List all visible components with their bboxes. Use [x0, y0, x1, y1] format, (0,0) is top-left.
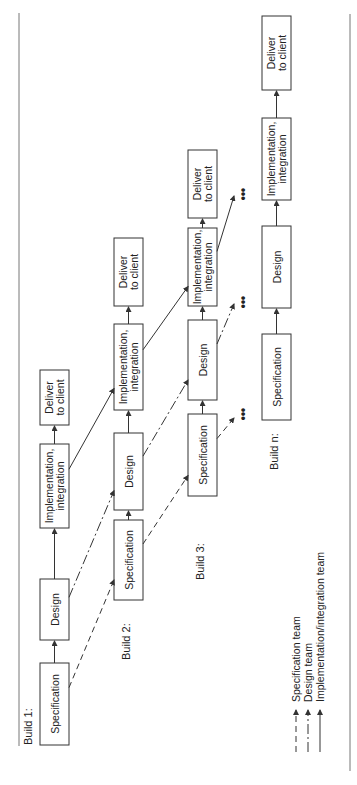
team-arrow-design: [143, 380, 188, 456]
diagram-svg: Build 1:SpecificationDesignImplementatio…: [0, 0, 357, 785]
stage-box-design: Design: [262, 201, 291, 308]
stage-label: Specification: [49, 674, 61, 734]
ellipsis: •••: [236, 188, 250, 201]
incremental-model-diagram: Build 1:SpecificationDesignImplementatio…: [0, 0, 357, 785]
stage-box-spec: Specification: [262, 309, 291, 420]
stage-label: Specification: [197, 425, 209, 485]
team-arrow-design: [69, 491, 114, 598]
stage-box-deliver: Deliverto client: [262, 16, 291, 90]
stage-label: Design: [197, 343, 209, 376]
stage-label: integration: [128, 342, 140, 391]
ellipsis: •••: [236, 408, 250, 421]
stage-box-deliver: Deliverto client: [40, 370, 69, 425]
build-3: Build 3:SpecificationDesignImplementatio…: [188, 150, 217, 580]
legend-label: Design team: [302, 643, 314, 702]
team-arrow-spec: [217, 418, 234, 439]
team-arrow-impl: [143, 287, 188, 350]
build-1: Build 1:SpecificationDesignImplementatio…: [22, 370, 69, 745]
stage-box-spec: Specification: [188, 401, 217, 496]
builds-group: Build 1:SpecificationDesignImplementatio…: [22, 16, 291, 745]
stage-label: Design: [123, 455, 135, 488]
stage-label: to client: [202, 166, 214, 202]
stage-label: to client: [276, 35, 288, 71]
stage-box-impl: Implementation,integration: [114, 307, 143, 410]
build-label: Build 1:: [22, 708, 34, 745]
stage-box-design: Design: [188, 307, 217, 400]
build-label: Build 2:: [120, 623, 132, 660]
stage-box-deliver: Deliverto client: [188, 150, 217, 218]
stage-box-impl: Implementation,integration: [40, 426, 69, 528]
stage-label: integration: [54, 461, 66, 510]
team-arrow-impl: [217, 196, 234, 251]
build-4: Build n:SpecificationDesignImplementatio…: [262, 16, 291, 470]
team-arrow-impl: [69, 389, 114, 470]
stage-box-deliver: Deliverto client: [114, 238, 143, 306]
stage-box-impl: Implementation,integration: [188, 219, 217, 306]
build-2: Build 2:SpecificationDesignImplementatio…: [114, 238, 143, 660]
stage-label: to client: [128, 254, 140, 290]
stage-label: to client: [54, 379, 66, 415]
build-label: Build n:: [268, 433, 280, 470]
stage-label: integration: [202, 242, 214, 291]
stage-box-design: Design: [114, 411, 143, 510]
ellipsis: •••: [236, 296, 250, 309]
stage-box-design: Design: [40, 529, 69, 640]
stage-label: Specification: [123, 530, 135, 590]
team-arrow-spec: [143, 476, 188, 545]
legend: Specification teamDesign teamImplementat…: [290, 552, 326, 752]
team-arrow-design: [217, 304, 234, 344]
stage-box-spec: Specification: [114, 511, 143, 600]
legend-label: Specification team: [290, 616, 302, 702]
stage-box-spec: Specification: [40, 641, 69, 745]
stage-label: Design: [271, 250, 283, 283]
legend-item-design: Design team: [302, 643, 314, 752]
build-label: Build 3:: [194, 543, 206, 580]
legend-label: Implementation/integration team: [314, 552, 326, 702]
stage-box-impl: Implementation,integration: [262, 91, 291, 200]
ellipsis-group: •••••••••: [236, 188, 250, 421]
stage-label: Specification: [271, 347, 283, 407]
stage-label: integration: [276, 134, 288, 183]
legend-item-impl: Implementation/integration team: [314, 552, 326, 752]
team-arrow-spec: [69, 580, 114, 688]
legend-item-spec: Specification team: [290, 616, 302, 752]
stage-label: Design: [49, 593, 61, 626]
